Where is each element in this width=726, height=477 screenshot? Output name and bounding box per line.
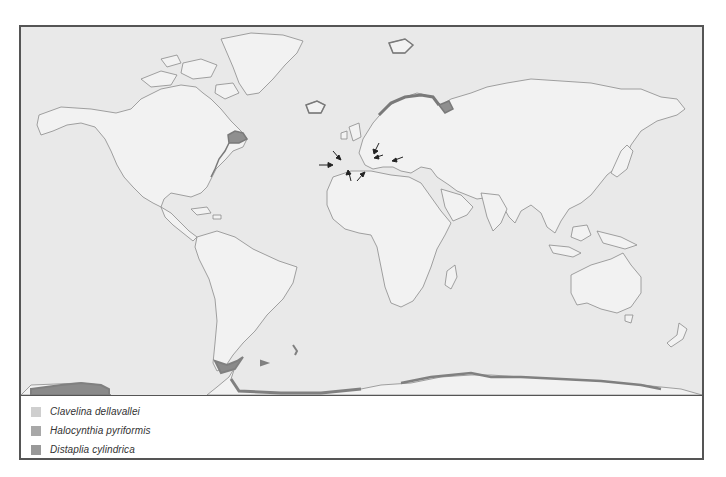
- distaplia-south-georgia: [293, 345, 297, 355]
- legend-item-distaplia: Distaplia cylindrica: [31, 440, 151, 459]
- australia: [571, 253, 641, 313]
- north-america: [37, 85, 247, 207]
- arrow-spain: [333, 151, 341, 160]
- halocynthia-gulf-of-maine: [228, 131, 247, 143]
- africa: [327, 171, 451, 307]
- legend: Clavelina dellavallei Halocynthia pyrifo…: [31, 402, 151, 459]
- legend-label: Distaplia cylindrica: [50, 444, 135, 455]
- antarctica: [207, 367, 702, 395]
- legend-item-halocynthia: Halocynthia pyriformis: [31, 421, 151, 440]
- legend-swatch-halocynthia: [31, 426, 41, 436]
- south-america: [195, 231, 297, 371]
- distaplia-antarctic-peninsula: [231, 379, 361, 393]
- legend-swatch-distaplia: [31, 445, 41, 455]
- legend-divider: [21, 395, 702, 396]
- legend-label: Clavelina dellavallei: [50, 406, 140, 417]
- arrow-gibraltar: [319, 163, 333, 168]
- legend-swatch-clavelina: [31, 407, 41, 417]
- world-map: [21, 27, 702, 395]
- legend-item-clavelina: Clavelina dellavallei: [31, 402, 151, 421]
- distaplia-falklands: [261, 361, 267, 365]
- world-map-svg: [21, 27, 702, 395]
- legend-label: Halocynthia pyriformis: [50, 425, 151, 436]
- map-figure: Clavelina dellavallei Halocynthia pyrifo…: [19, 25, 704, 460]
